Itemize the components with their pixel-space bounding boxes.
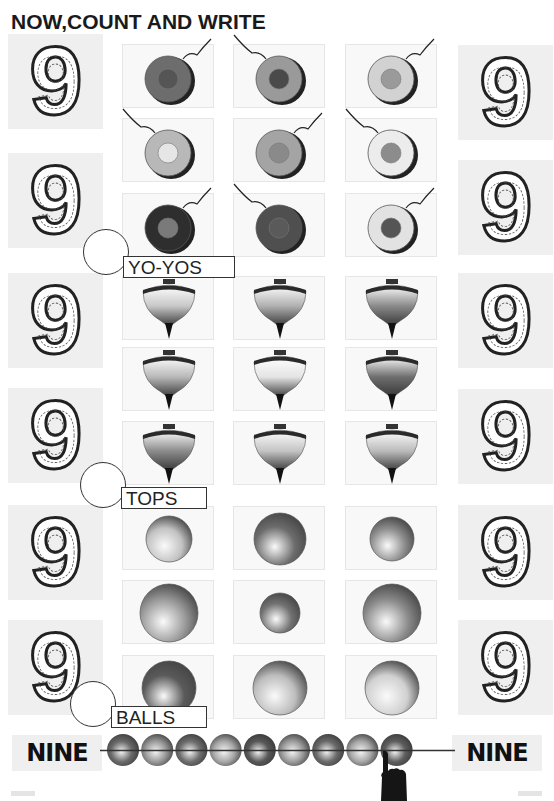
number-tile-9: 9 9: [8, 34, 103, 129]
spinning-top-icon: [122, 421, 214, 485]
spinning-top-icon: [233, 347, 325, 411]
number-tile-9: 9 9: [8, 153, 103, 248]
svg-text:9: 9: [35, 511, 77, 595]
nine-word-left: NINE: [12, 735, 102, 771]
spinning-top-icon: [122, 276, 214, 340]
svg-text:9: 9: [485, 626, 527, 710]
spinning-top-icon: [233, 276, 325, 340]
tops-answer-circle[interactable]: [80, 462, 126, 508]
number-tile-9: 9 9: [458, 389, 553, 484]
spinning-top-icon: [345, 347, 437, 411]
svg-text:9: 9: [485, 51, 527, 135]
nine-word-right: NINE: [452, 735, 542, 771]
ball-icon: [233, 506, 325, 570]
yo-yo-icon: [345, 118, 437, 182]
yoyos-label: YO-YOS: [123, 256, 235, 278]
yo-yo-icon: [345, 193, 437, 257]
svg-text:9: 9: [485, 279, 527, 363]
svg-text:9: 9: [485, 511, 527, 595]
scan-mark: [518, 791, 542, 796]
number-tile-9: 9 9: [458, 160, 553, 255]
ball-icon: [233, 655, 325, 719]
hand-pointing-icon: [377, 751, 409, 801]
yo-yo-icon: [122, 44, 214, 108]
yo-yo-icon: [233, 193, 325, 257]
svg-text:9: 9: [35, 159, 77, 243]
spinning-top-icon: [345, 276, 437, 340]
number-tile-9: 9 9: [8, 505, 103, 600]
number-tile-9: 9 9: [458, 505, 553, 600]
tops-label: TOPS: [121, 487, 207, 509]
balls-answer-circle[interactable]: [70, 681, 116, 727]
yo-yo-icon: [122, 118, 214, 182]
number-tile-9: 9 9: [458, 620, 553, 715]
svg-text:9: 9: [485, 395, 527, 479]
svg-text:9: 9: [35, 279, 77, 363]
ball-icon: [233, 580, 325, 644]
spinning-top-icon: [122, 347, 214, 411]
ball-icon: [345, 506, 437, 570]
yo-yo-icon: [233, 118, 325, 182]
number-tile-9: 9 9: [8, 273, 103, 368]
yo-yo-icon: [345, 44, 437, 108]
ball-icon: [345, 580, 437, 644]
yo-yo-icon: [233, 44, 325, 108]
ball-icon: [345, 655, 437, 719]
svg-text:9: 9: [485, 166, 527, 250]
svg-text:9: 9: [35, 394, 77, 478]
balls-label: BALLS: [111, 706, 207, 728]
scan-mark: [11, 791, 35, 796]
ball-icon: [122, 580, 214, 644]
yo-yo-icon: [122, 193, 214, 257]
spinning-top-icon: [345, 421, 437, 485]
number-tile-9: 9 9: [458, 273, 553, 368]
spinning-top-icon: [233, 421, 325, 485]
number-tile-9: 9 9: [458, 45, 553, 140]
page-title: NOW,COUNT AND WRITE: [11, 10, 266, 34]
svg-text:9: 9: [35, 40, 77, 124]
ball-icon: [122, 506, 214, 570]
